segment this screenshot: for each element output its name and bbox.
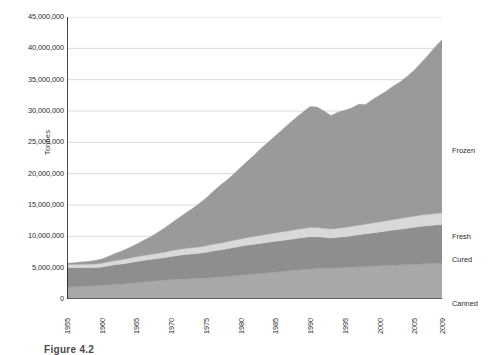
x-tick-label: 2000 bbox=[376, 308, 385, 334]
x-tick-label: 1980 bbox=[237, 308, 246, 334]
y-tick-label: 35,000,000 bbox=[2, 76, 64, 84]
x-axis-tick-labels: 1955196019651970197519801985199019952000… bbox=[0, 300, 494, 340]
x-tick-label: 1955 bbox=[63, 308, 72, 334]
series-label-canned: Canned bbox=[452, 299, 478, 308]
y-tick-label: 15,000,000 bbox=[2, 201, 64, 209]
x-tick-label: 1970 bbox=[167, 308, 176, 334]
series-label-frozen: Frozen bbox=[452, 146, 475, 155]
x-tick-label: 1960 bbox=[98, 308, 107, 334]
y-tick-label: 5,000,000 bbox=[2, 264, 64, 272]
plot-area bbox=[67, 17, 442, 299]
x-tick-label: 1975 bbox=[202, 308, 211, 334]
x-tick-label: 1990 bbox=[306, 308, 315, 334]
y-tick-label: 10,000,000 bbox=[2, 232, 64, 240]
y-tick-label: 30,000,000 bbox=[2, 107, 64, 115]
x-tick-label: 1995 bbox=[341, 308, 350, 334]
x-tick-label: 2009 bbox=[438, 308, 447, 334]
series-label-cured: Cured bbox=[452, 255, 472, 264]
stacked-area-chart bbox=[67, 17, 442, 299]
y-tick-label: 40,000,000 bbox=[2, 44, 64, 52]
y-tick-label: 45,000,000 bbox=[2, 13, 64, 21]
x-tick-label: 1985 bbox=[271, 308, 280, 334]
series-label-fresh: Fresh bbox=[452, 232, 471, 241]
x-tick-label: 2005 bbox=[410, 308, 419, 334]
figure-caption: Figure 4.2 bbox=[44, 344, 94, 355]
x-tick-label: 1965 bbox=[132, 308, 141, 334]
y-tick-label: 20,000,000 bbox=[2, 170, 64, 178]
y-tick-label: 25,000,000 bbox=[2, 138, 64, 146]
